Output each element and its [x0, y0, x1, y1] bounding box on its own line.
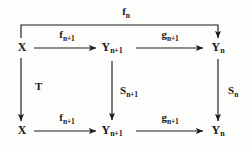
node-x-top: X	[18, 41, 27, 56]
edge-label-subscript: n	[126, 11, 130, 20]
edge-label-f-n-outer: fn	[122, 6, 130, 19]
node-label-base: Y	[212, 40, 221, 54]
edge-label-subscript: n+1	[63, 34, 75, 43]
edge-label-subscript: n	[234, 90, 238, 99]
edge-label-f-np1-top: fn+1	[59, 29, 74, 42]
node-label-subscript: n+1	[110, 129, 122, 138]
node-label-base: X	[18, 40, 27, 54]
node-label-base: Y	[101, 40, 110, 54]
node-label-subscript: n	[220, 129, 224, 138]
edge-label-subscript: n+1	[167, 34, 179, 43]
arrow-f-n-outer	[21, 25, 218, 38]
edge-label-g-np1-top: gn+1	[161, 29, 178, 42]
commutative-diagram: X Yn+1 Yn X Yn+1 Yn fn fn+1 gn+1 T Sn+1 …	[0, 0, 252, 150]
edge-label-f-np1-bottom: fn+1	[59, 112, 74, 125]
node-label-base: Y	[212, 123, 221, 137]
edge-label-T-left: T	[35, 81, 42, 94]
node-x-bottom: X	[18, 124, 27, 139]
edge-label-subscript: n+1	[167, 117, 179, 126]
node-y-n-top: Yn	[212, 41, 225, 56]
edge-label-subscript: n+1	[63, 117, 75, 126]
node-y-n-bottom: Yn	[212, 124, 225, 139]
node-label-subscript: n	[220, 46, 224, 55]
node-label-subscript: n+1	[110, 46, 122, 55]
edge-label-S-np1-middle: Sn+1	[120, 85, 138, 98]
node-label-base: Y	[101, 123, 110, 137]
node-label-base: X	[18, 123, 27, 137]
edge-label-g-np1-bottom: gn+1	[161, 112, 178, 125]
edge-label-S-n-right: Sn	[228, 85, 238, 98]
edge-label-subscript: n+1	[126, 90, 138, 99]
node-y-np1-bottom: Yn+1	[101, 124, 122, 139]
edge-label-base: T	[35, 80, 42, 92]
node-y-np1-top: Yn+1	[101, 41, 122, 56]
